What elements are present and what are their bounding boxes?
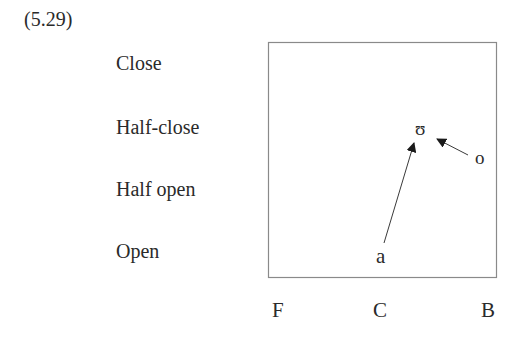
- chart-frame: [269, 43, 497, 278]
- x-label-back: B: [481, 298, 495, 323]
- arrow-a-to-upsilon: [384, 143, 414, 243]
- symbol-o: o: [475, 147, 485, 169]
- arrow-o-to-upsilon: [437, 139, 468, 155]
- vowel-chart-diagram: [0, 0, 522, 338]
- x-label-front: F: [272, 298, 284, 323]
- x-label-central: C: [373, 298, 387, 323]
- symbol-a: a: [376, 244, 385, 269]
- symbol-upsilon: ʊ: [415, 118, 425, 140]
